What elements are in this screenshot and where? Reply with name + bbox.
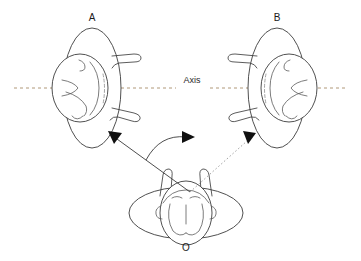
figure-a-group: A (52, 12, 141, 148)
figure-b-label: B (274, 12, 281, 23)
ray-to-a-line (117, 139, 190, 192)
rotation-arc-path (146, 137, 186, 160)
figure-a-label: A (89, 12, 96, 23)
ray-to-b-line (190, 141, 247, 192)
ray-to-a-arrowhead (108, 131, 122, 144)
rotation-arc-group (146, 131, 195, 160)
figure-b-lower-arm (229, 108, 259, 122)
ray-to-b-arrowhead (243, 131, 256, 144)
rotation-arc-arrowhead (182, 131, 195, 143)
rotation-diagram: Axis A (0, 0, 361, 261)
figure-o-group: O (129, 169, 243, 253)
axis-label: Axis (183, 75, 201, 85)
figure-a-lower-arm (110, 108, 140, 122)
diagram-canvas: Axis A (0, 0, 361, 261)
figure-b-head (261, 54, 317, 122)
figure-a-head (52, 54, 108, 122)
figure-o-label: O (182, 242, 190, 253)
